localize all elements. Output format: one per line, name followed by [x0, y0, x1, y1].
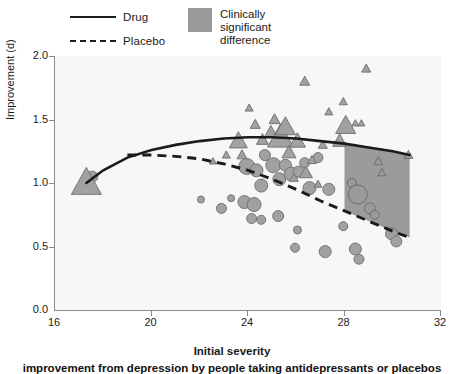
x-tick-label: 28 [327, 316, 361, 328]
data-point-placebo [391, 236, 402, 247]
data-point-placebo [323, 183, 335, 195]
data-point-drug [71, 167, 101, 194]
solid-line-swatch-icon [70, 16, 116, 18]
data-point-drug [229, 132, 247, 148]
data-point-placebo [291, 243, 300, 252]
x-tick-mark [151, 311, 152, 316]
data-point-placebo [247, 214, 257, 224]
data-point-drug [250, 119, 260, 128]
legend-label-region-line2: significant [220, 21, 271, 33]
legend-label-region-line3: difference [220, 34, 270, 46]
data-point-placebo [273, 211, 284, 222]
y-tick-label: 1.0 [8, 176, 48, 188]
data-point-drug [339, 98, 347, 105]
data-point-drug [275, 117, 295, 135]
y-tick-label: 0.0 [8, 303, 48, 315]
data-point-placebo [255, 179, 268, 192]
x-tick-label: 24 [230, 316, 264, 328]
x-tick-label: 32 [423, 316, 457, 328]
data-point-placebo [197, 196, 204, 203]
dashed-line-swatch-icon [70, 40, 116, 42]
data-point-drug [325, 108, 333, 115]
plot-area [54, 56, 441, 311]
chart-legend: Drug Placebo Clinically significant diff… [70, 6, 330, 52]
data-point-placebo [348, 185, 367, 204]
data-point-placebo [349, 243, 361, 255]
data-point-drug [237, 150, 247, 159]
y-tick-mark [49, 120, 54, 121]
data-point-drug [300, 76, 310, 85]
data-point-drug [358, 120, 365, 126]
data-point-placebo [339, 222, 348, 231]
data-point-placebo [370, 210, 379, 219]
gray-square-swatch-icon [188, 8, 212, 32]
data-point-drug [269, 114, 280, 124]
data-point-placebo [257, 215, 266, 224]
plot-canvas [55, 56, 441, 310]
x-tick-mark [344, 311, 345, 316]
chart-figure: Drug Placebo Clinically significant diff… [0, 0, 464, 374]
x-tick-mark [440, 311, 441, 316]
y-tick-label: 1.5 [8, 113, 48, 125]
legend-label-placebo: Placebo [123, 35, 165, 47]
data-point-placebo [216, 203, 226, 213]
x-tick-mark [247, 311, 248, 316]
legend-label-region: Clinically significant difference [220, 8, 271, 48]
x-axis-label: Initial severity [0, 345, 464, 357]
y-tick-mark [49, 183, 54, 184]
data-point-placebo [319, 246, 331, 258]
legend-label-region-line1: Clinically [220, 8, 265, 20]
x-tick-label: 16 [37, 316, 71, 328]
data-point-drug [352, 120, 359, 126]
data-point-placebo [354, 254, 364, 264]
y-tick-mark [49, 247, 54, 248]
data-point-drug [222, 151, 230, 158]
legend-label-drug: Drug [123, 11, 148, 23]
y-tick-mark [49, 56, 54, 57]
y-tick-label: 0.5 [8, 240, 48, 252]
legend-item-drug: Drug [70, 11, 148, 23]
data-point-placebo [247, 198, 261, 212]
data-point-drug [314, 180, 322, 187]
figure-caption: improvement from depression by people ta… [0, 362, 464, 374]
data-point-placebo [266, 158, 281, 173]
legend-item-region: Clinically significant difference [188, 8, 271, 48]
x-tick-label: 20 [134, 316, 168, 328]
data-point-drug [362, 64, 371, 72]
data-point-drug [245, 104, 253, 111]
y-tick-label: 2.0 [8, 49, 48, 61]
data-point-placebo [293, 226, 301, 234]
legend-item-placebo: Placebo [70, 35, 165, 47]
data-point-placebo [228, 195, 235, 202]
